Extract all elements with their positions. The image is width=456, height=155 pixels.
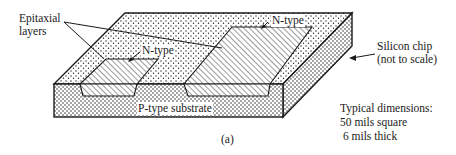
silicon-chip-label-line2: (not to scale) bbox=[377, 53, 437, 66]
figure-caption: (a) bbox=[221, 133, 234, 146]
dimensions-label: Typical dimensions: 50 mils square 6 mil… bbox=[340, 101, 433, 143]
dimensions-line1: Typical dimensions: bbox=[340, 101, 433, 115]
silicon-chip-label-line1: Silicon chip bbox=[377, 40, 437, 53]
left-well-front bbox=[80, 84, 137, 96]
n-type-left-label: N-type bbox=[141, 44, 175, 57]
silicon-chip-label: Silicon chip (not to scale) bbox=[377, 40, 437, 66]
right-well-front bbox=[184, 84, 270, 96]
epitaxial-label-line2: layers bbox=[19, 25, 61, 38]
p-substrate-label: P-type substrate bbox=[137, 102, 213, 115]
epitaxial-label-line1: Epitaxial bbox=[19, 12, 61, 25]
dimensions-line3: 6 mils thick bbox=[340, 129, 433, 143]
dimensions-line2: 50 mils square bbox=[340, 115, 433, 129]
n-type-right-label: N-type bbox=[271, 14, 305, 27]
epitaxial-label: Epitaxial layers bbox=[19, 12, 61, 38]
silicon-chip-arrowhead bbox=[349, 55, 356, 61]
